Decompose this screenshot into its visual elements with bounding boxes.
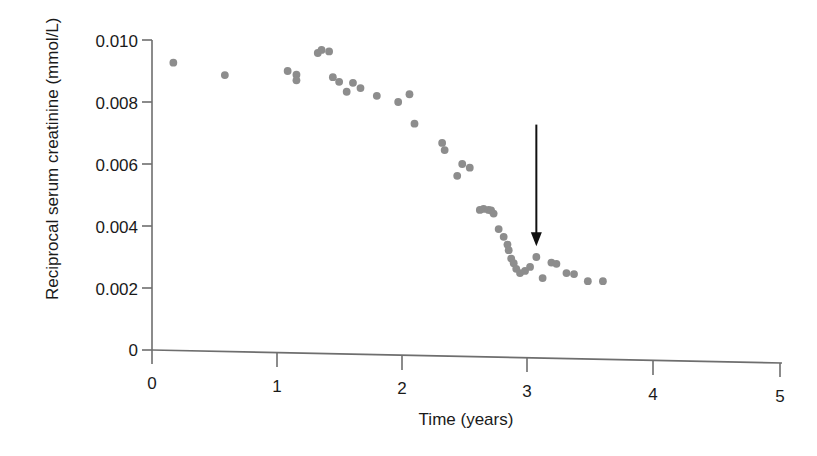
data-point — [325, 48, 333, 56]
data-point — [221, 71, 229, 79]
data-point — [599, 277, 607, 285]
data-point — [490, 210, 498, 218]
data-point — [570, 270, 578, 278]
data-point — [438, 139, 446, 147]
data-point — [293, 76, 301, 84]
data-point — [349, 79, 357, 87]
y-tick-label-0.006: 0.006 — [95, 156, 138, 175]
data-point — [441, 146, 449, 154]
x-tick-label-2: 2 — [397, 379, 406, 398]
reciprocal-creatinine-scatter-chart: Reciprocal serum creatinine (mmol/L) 0.0… — [0, 0, 817, 456]
data-point — [406, 90, 414, 98]
x-tick-label-5: 5 — [775, 387, 784, 406]
data-point — [584, 277, 592, 285]
y-tick-label-0.002: 0.002 — [95, 280, 138, 299]
x-tick-label-4: 4 — [648, 385, 657, 404]
data-point — [500, 233, 508, 241]
data-point — [526, 263, 534, 271]
data-point — [505, 246, 513, 254]
data-point — [329, 73, 337, 81]
data-point — [343, 88, 351, 96]
data-point — [318, 46, 326, 54]
x-axis-title: Time (years) — [419, 410, 514, 429]
data-point — [563, 269, 571, 277]
data-point — [495, 225, 503, 233]
data-point — [532, 253, 540, 261]
y-tick-label-0: 0 — [129, 341, 138, 360]
data-point — [453, 172, 461, 180]
data-point — [169, 59, 177, 67]
data-point — [357, 84, 365, 92]
y-tick-label-0.008: 0.008 — [95, 94, 138, 113]
data-point — [335, 78, 343, 86]
data-point — [394, 98, 402, 106]
data-point — [539, 274, 547, 282]
data-point — [458, 160, 466, 168]
data-point — [284, 67, 292, 75]
figure-container: Reciprocal serum creatinine (mmol/L) 0.0… — [0, 0, 817, 456]
x-tick-label-0: 0 — [147, 374, 156, 393]
data-point — [373, 92, 381, 100]
y-tick-label-0.010: 0.010 — [95, 32, 138, 51]
data-point — [553, 260, 561, 268]
y-axis-title: Reciprocal serum creatinine (mmol/L) — [43, 18, 62, 300]
x-tick-label-1: 1 — [272, 377, 281, 396]
data-point — [466, 164, 474, 172]
y-tick-label-0.004: 0.004 — [95, 218, 138, 237]
x-tick-label-3: 3 — [522, 382, 531, 401]
data-point — [411, 120, 419, 128]
